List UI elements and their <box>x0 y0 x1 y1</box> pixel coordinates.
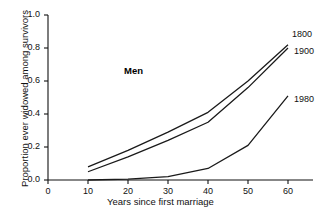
series-label-1980: 1980 <box>294 94 314 104</box>
x-axis-title: Years since first marriage <box>0 196 321 207</box>
men-annotation: Men <box>124 65 143 76</box>
x-tick-label: 50 <box>243 186 253 196</box>
y-tick-marks <box>44 15 48 180</box>
series-line-1800 <box>88 45 288 167</box>
x-tick-label: 40 <box>203 186 213 196</box>
series-line-1900 <box>88 48 288 172</box>
chart-figure: 0102030405060 0.00.20.40.60.81.0 Years s… <box>0 0 321 220</box>
x-tick-marks <box>48 180 288 184</box>
x-tick-label: 60 <box>283 186 293 196</box>
x-tick-label: 20 <box>123 186 133 196</box>
y-axis-title: Proportion ever widowed among survivors <box>19 9 30 189</box>
series-label-1800: 1800 <box>292 29 312 39</box>
x-tick-label: 0 <box>45 186 50 196</box>
axis-lines <box>48 15 313 180</box>
x-tick-label: 30 <box>163 186 173 196</box>
series-line-1980 <box>88 96 288 180</box>
x-tick-label: 10 <box>83 186 93 196</box>
series-label-1900: 1900 <box>294 46 314 56</box>
series-lines <box>88 45 288 180</box>
